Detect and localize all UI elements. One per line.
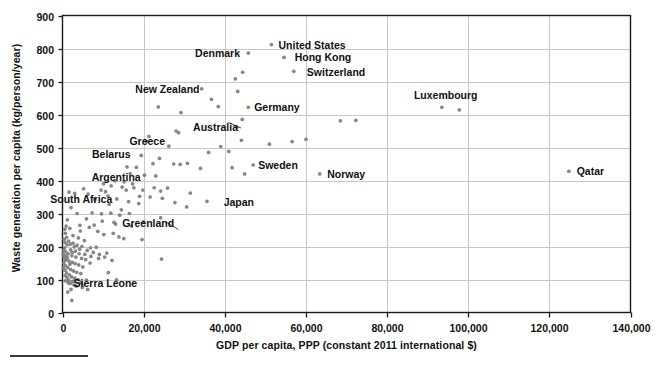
x-tick-label: 60,000 bbox=[290, 322, 322, 334]
data-point bbox=[65, 243, 69, 247]
data-point bbox=[143, 173, 147, 177]
data-point bbox=[111, 231, 115, 235]
data-point bbox=[70, 254, 74, 258]
y-tick-label: 700 bbox=[20, 77, 54, 89]
data-point bbox=[166, 186, 170, 190]
data-point bbox=[98, 253, 102, 257]
x-tick-label: 120,000 bbox=[531, 322, 569, 334]
y-tick-label: 300 bbox=[20, 209, 54, 221]
data-point bbox=[128, 212, 132, 216]
data-point bbox=[241, 70, 245, 74]
data-point bbox=[72, 269, 76, 273]
data-point bbox=[100, 212, 104, 216]
data-point bbox=[97, 257, 101, 261]
data-point bbox=[69, 288, 73, 292]
data-point bbox=[292, 69, 296, 73]
data-point bbox=[268, 142, 272, 146]
data-point bbox=[240, 118, 244, 122]
data-point bbox=[106, 271, 110, 275]
data-point bbox=[85, 217, 89, 221]
data-point bbox=[74, 255, 78, 259]
data-point bbox=[92, 223, 96, 227]
data-point bbox=[125, 165, 129, 169]
data-point bbox=[87, 226, 91, 230]
data-point bbox=[80, 257, 84, 261]
data-point bbox=[290, 140, 294, 144]
data-point bbox=[156, 105, 160, 109]
data-point bbox=[67, 259, 71, 263]
point-label: Denmark bbox=[195, 47, 240, 59]
data-point bbox=[178, 162, 182, 166]
data-point bbox=[66, 218, 70, 222]
data-point bbox=[96, 229, 100, 233]
data-point bbox=[81, 265, 85, 269]
data-point bbox=[132, 186, 136, 190]
data-point bbox=[77, 263, 81, 267]
data-point bbox=[122, 237, 126, 241]
data-point bbox=[339, 119, 343, 123]
data-point bbox=[94, 245, 98, 249]
data-point bbox=[354, 119, 358, 123]
data-point bbox=[440, 105, 444, 109]
point-label: Qatar bbox=[577, 165, 604, 177]
point-label: Sweden bbox=[258, 159, 298, 171]
y-tick-label: 600 bbox=[20, 110, 54, 122]
data-point bbox=[124, 188, 128, 192]
point-label: Germany bbox=[254, 101, 300, 113]
data-point bbox=[167, 144, 171, 148]
y-tick-label: 900 bbox=[20, 11, 54, 23]
data-point bbox=[63, 231, 67, 235]
data-point bbox=[66, 290, 70, 294]
point-label: Greece bbox=[129, 135, 165, 147]
data-point bbox=[71, 234, 75, 238]
point-label: Japan bbox=[224, 196, 254, 208]
data-point bbox=[137, 202, 141, 206]
data-point bbox=[119, 208, 123, 212]
data-point bbox=[251, 163, 255, 167]
data-point bbox=[105, 251, 109, 255]
y-tick-label: 800 bbox=[20, 44, 54, 56]
point-label: Australia bbox=[193, 121, 238, 133]
data-point bbox=[120, 185, 124, 189]
footer-rule bbox=[10, 355, 88, 357]
point-label: Hong Kong bbox=[295, 51, 352, 63]
x-tick-label: 100,000 bbox=[450, 322, 488, 334]
data-point bbox=[69, 206, 73, 210]
data-point bbox=[243, 172, 247, 176]
data-point bbox=[233, 77, 237, 81]
data-point bbox=[117, 235, 121, 239]
data-point bbox=[246, 51, 250, 55]
data-point bbox=[185, 205, 189, 209]
x-tick-label: 80,000 bbox=[371, 322, 403, 334]
data-point bbox=[141, 188, 145, 192]
data-point bbox=[151, 162, 155, 166]
point-label: Norway bbox=[327, 168, 365, 180]
data-point bbox=[79, 272, 83, 276]
data-point bbox=[68, 262, 72, 266]
data-point bbox=[67, 239, 71, 243]
x-tick-label: 0 bbox=[61, 322, 67, 334]
data-point bbox=[71, 241, 75, 245]
data-point bbox=[65, 235, 69, 239]
data-point bbox=[85, 249, 89, 253]
point-label: United States bbox=[278, 39, 345, 51]
data-point bbox=[100, 219, 104, 223]
data-point bbox=[148, 195, 152, 199]
data-point bbox=[172, 162, 176, 166]
data-point bbox=[66, 281, 70, 285]
data-point bbox=[236, 90, 240, 94]
point-label: Sierra Leone bbox=[74, 277, 138, 289]
data-point bbox=[91, 251, 95, 255]
data-point bbox=[89, 246, 93, 250]
data-point bbox=[76, 236, 80, 240]
data-point bbox=[246, 105, 250, 109]
y-tick-label: 200 bbox=[20, 242, 54, 254]
point-label: Belarus bbox=[92, 148, 131, 160]
data-point bbox=[70, 251, 74, 255]
y-tick-label: 500 bbox=[20, 143, 54, 155]
data-point bbox=[160, 196, 164, 200]
data-point bbox=[205, 199, 209, 203]
data-point bbox=[63, 227, 67, 231]
data-point bbox=[200, 87, 204, 91]
data-point bbox=[83, 253, 87, 257]
